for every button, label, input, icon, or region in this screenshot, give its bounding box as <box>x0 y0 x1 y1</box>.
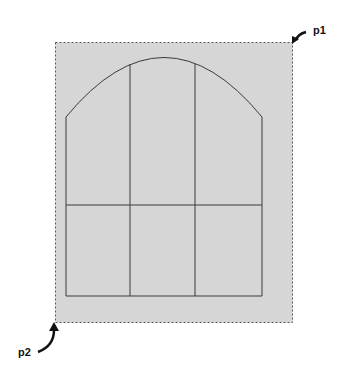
selection-rectangle <box>56 43 293 323</box>
arrow-p2 <box>38 322 59 352</box>
label-p2: p2 <box>18 346 31 358</box>
diagram-canvas <box>0 0 342 385</box>
arrow-p1 <box>292 32 306 44</box>
arrow-head-p2 <box>49 322 59 331</box>
label-p1: p1 <box>313 24 326 36</box>
